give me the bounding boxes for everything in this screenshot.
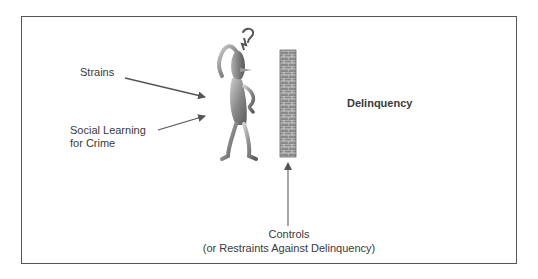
social-learning-label-line2: for Crime	[70, 137, 115, 150]
strains-label: Strains	[80, 66, 114, 79]
strains-arrow	[125, 78, 205, 97]
social-learning-arrow	[158, 116, 205, 130]
social-learning-label: Social Learning	[70, 124, 146, 137]
controls-sublabel: (or Restraints Against Delinquency)	[203, 242, 375, 255]
brick-wall-icon	[280, 50, 296, 157]
delinquency-label: Delinquency	[347, 97, 412, 110]
confused-stick-figure-icon	[219, 29, 256, 159]
controls-label: Controls	[269, 228, 310, 241]
